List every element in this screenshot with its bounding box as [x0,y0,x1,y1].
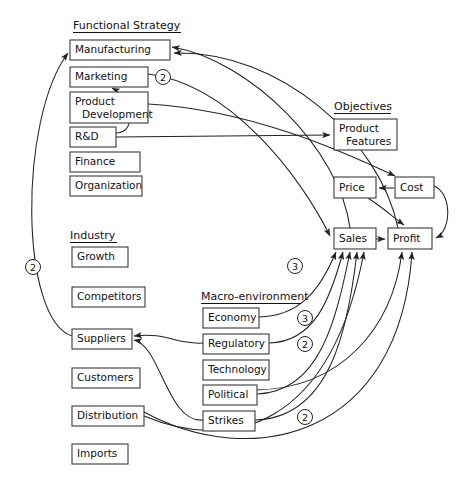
node-political[interactable]: Political [203,385,257,405]
edge-sales-manufacturing [172,47,350,228]
node-label-marketing: Marketing [75,70,127,82]
node-label-growth: Growth [77,250,115,262]
group-title-industry: Industry [70,229,116,242]
node-growth[interactable]: Growth [72,247,128,267]
node-product-development[interactable]: ProductDevelopment [70,92,153,123]
node-strikes[interactable]: Strikes [203,411,255,431]
badge-regulatory-sales: 2 [298,337,313,352]
node-manufacturing[interactable]: Manufacturing [70,40,170,60]
badge-suppliers-manufacturing: 2 [26,260,41,275]
edge-political-profit [257,252,402,390]
badge-economy-sales: 3 [298,311,313,326]
edge-regulatory-suppliers [134,335,203,343]
badge-strikes-sales: 2 [298,410,313,425]
node-label-political: Political [208,388,248,400]
node-label-cost: Cost [400,181,423,193]
edge-strikes-sales [255,252,357,420]
group-title-macro-environment: Macro-environment [201,290,309,303]
node-competitors[interactable]: Competitors [72,287,145,307]
diagram-canvas: Functional StrategyManufacturingMarketin… [0,0,470,489]
edge-distribution-profit [144,252,412,439]
node-label-imports: Imports [77,447,117,459]
node-technology[interactable]: Technology [203,360,269,380]
node-label-profit: Profit [393,232,420,244]
badge-marketing-manufacturing-value: 2 [160,72,166,83]
influence-diagram: Functional StrategyManufacturingMarketin… [0,0,470,489]
node-label-competitors: Competitors [77,290,141,302]
node-regulatory[interactable]: Regulatory [203,334,269,354]
node-profit[interactable]: Profit [388,228,432,249]
node-organization[interactable]: Organization [70,176,142,196]
node-layer: Functional StrategyManufacturingMarketin… [70,19,434,464]
badge-strikes-sales-value: 2 [302,412,308,423]
node-label-technology: Technology [207,363,267,375]
edge-cost-profit [434,186,448,238]
badge-marketing-manufacturing: 2 [156,70,171,85]
node-label-manufacturing: Manufacturing [75,43,151,55]
group-title-objectives: Objectives [334,100,392,113]
node-marketing[interactable]: Marketing [70,67,148,87]
node-sales[interactable]: Sales [334,228,376,249]
node-label-economy: Economy [208,311,256,323]
node-distribution[interactable]: Distribution [72,406,144,426]
node-label-regulatory: Regulatory [208,337,265,349]
edge-price-profit [368,198,404,225]
node-rd[interactable]: R&D [70,127,116,147]
edge-marketing-sales [148,74,330,236]
node-label-suppliers: Suppliers [77,332,126,344]
node-customers[interactable]: Customers [72,368,140,388]
edge-suppliers-manufacturing [32,53,72,336]
node-product-features[interactable]: ProductFeatures [334,119,397,150]
badge-suppliers-manufacturing-value: 2 [30,262,36,273]
node-label-organization: Organization [75,179,142,191]
node-label-strikes: Strikes [208,414,244,426]
node-finance[interactable]: Finance [70,152,140,172]
badge-sales-feedback-value: 3 [292,261,298,272]
node-label-rd: R&D [75,130,99,142]
badge-economy-sales-value: 3 [302,313,308,324]
node-label-finance: Finance [75,155,115,167]
group-title-functional-strategy: Functional Strategy [73,19,181,32]
node-label-customers: Customers [77,371,133,383]
node-label-distribution: Distribution [77,409,138,421]
node-suppliers[interactable]: Suppliers [72,329,132,349]
node-label-price: Price [339,181,365,193]
node-price[interactable]: Price [334,177,376,198]
node-label-sales: Sales [339,232,367,244]
node-imports[interactable]: Imports [72,444,128,464]
node-economy[interactable]: Economy [203,308,259,328]
badge-sales-feedback: 3 [288,259,303,274]
badge-regulatory-sales-value: 2 [302,339,308,350]
node-cost[interactable]: Cost [395,177,434,198]
